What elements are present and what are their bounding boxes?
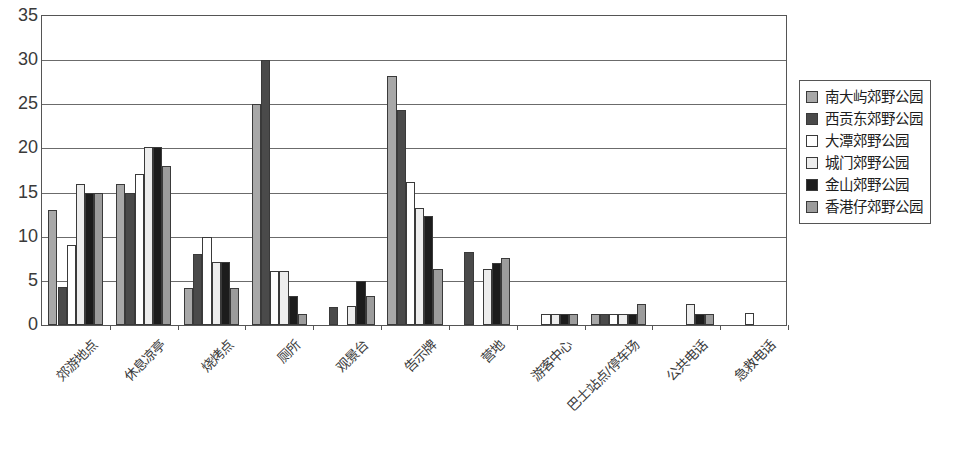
legend-item: 金山郊野公园	[806, 174, 923, 196]
bar	[67, 245, 76, 325]
bar	[347, 306, 356, 325]
x-axis-label: 公共电话	[660, 334, 711, 385]
legend-label: 金山郊野公园	[825, 178, 909, 193]
bar	[135, 174, 144, 325]
legend-item: 香港仔郊野公园	[806, 196, 923, 218]
bar	[193, 254, 202, 326]
y-axis-tick-label: 5	[4, 271, 38, 289]
y-axis-tick-label: 35	[4, 6, 38, 24]
chart-legend: 南大屿郊野公园西贡东郊野公园大潭郊野公园城门郊野公园金山郊野公园香港仔郊野公园	[799, 80, 931, 224]
bar	[433, 269, 442, 325]
bar	[261, 60, 270, 325]
bar	[329, 307, 338, 325]
y-axis-tick-label: 15	[4, 183, 38, 201]
bar	[406, 182, 415, 325]
x-axis-label: 急救电话	[728, 334, 779, 385]
y-axis-tick-label: 30	[4, 50, 38, 68]
gridline	[42, 104, 786, 105]
bar	[116, 184, 125, 325]
bar	[483, 269, 492, 325]
bar	[686, 304, 695, 325]
x-axis-label: 休息凉亭	[118, 334, 169, 385]
bar	[609, 314, 618, 325]
legend-swatch-icon	[806, 179, 818, 191]
x-axis-label: 观景台	[331, 334, 373, 376]
bar	[212, 262, 221, 325]
bar	[424, 216, 433, 325]
bar	[628, 314, 637, 325]
bar	[76, 184, 85, 325]
bar	[153, 147, 162, 325]
x-axis-labels: 郊游地点休息凉亭烧烤点厕所观景台告示牌营地游客中心巴士站点/停车场公共电话急救电…	[0, 326, 800, 456]
x-axis-label: 厕所	[272, 334, 305, 367]
y-axis-tick-label: 25	[4, 94, 38, 112]
y-axis-tick-label: 10	[4, 227, 38, 245]
bar	[298, 314, 307, 325]
legend-label: 西贡东郊野公园	[825, 112, 923, 127]
bar	[551, 314, 560, 325]
legend-label: 香港仔郊野公园	[825, 200, 923, 215]
bar	[366, 296, 375, 325]
x-axis-label: 烧烤点	[195, 334, 237, 376]
bar	[221, 262, 230, 325]
legend-swatch-icon	[806, 201, 818, 213]
bar	[356, 281, 365, 325]
legend-item: 大潭郊野公园	[806, 130, 923, 152]
x-axis-label: 营地	[475, 334, 508, 367]
gridline	[42, 60, 786, 61]
chart-page: 05101520253035 郊游地点休息凉亭烧烤点厕所观景台告示牌营地游客中心…	[0, 0, 965, 456]
bar	[415, 208, 424, 325]
bar	[397, 110, 406, 325]
bar	[184, 288, 193, 325]
bar	[85, 193, 94, 325]
x-axis-label: 游客中心	[525, 334, 576, 385]
bar	[162, 166, 171, 325]
bar	[705, 314, 714, 325]
x-axis-label: 告示牌	[398, 334, 440, 376]
bar	[541, 314, 550, 325]
bar	[144, 147, 153, 325]
bar	[48, 210, 57, 325]
bar	[618, 314, 627, 325]
bar	[387, 76, 396, 325]
legend-label: 南大屿郊野公园	[825, 90, 923, 105]
bar	[289, 296, 298, 325]
bar	[745, 313, 754, 325]
x-axis-label: 郊游地点	[50, 334, 101, 385]
bar	[695, 314, 704, 325]
bar	[125, 193, 134, 325]
legend-item: 南大屿郊野公园	[806, 86, 923, 108]
bar	[492, 263, 501, 325]
legend-label: 大潭郊野公园	[825, 134, 909, 149]
bar	[569, 314, 578, 325]
legend-label: 城门郊野公园	[825, 156, 909, 171]
y-axis-tick-label: 20	[4, 138, 38, 156]
bar	[230, 288, 239, 325]
plot-area	[41, 15, 787, 326]
bar	[270, 271, 279, 325]
legend-swatch-icon	[806, 157, 818, 169]
bar	[501, 258, 510, 325]
bar	[279, 271, 288, 325]
bar	[94, 193, 103, 325]
y-axis: 05101520253035	[0, 0, 38, 341]
legend-swatch-icon	[806, 113, 818, 125]
bar	[560, 314, 569, 325]
legend-swatch-icon	[806, 135, 818, 147]
legend-item: 西贡东郊野公园	[806, 108, 923, 130]
bar	[637, 304, 646, 325]
bar	[202, 237, 211, 325]
bar	[58, 287, 67, 325]
legend-swatch-icon	[806, 91, 818, 103]
bar	[600, 314, 609, 325]
legend-item: 城门郊野公园	[806, 152, 923, 174]
bar	[464, 252, 473, 325]
bar	[252, 104, 261, 325]
bar	[591, 314, 600, 325]
